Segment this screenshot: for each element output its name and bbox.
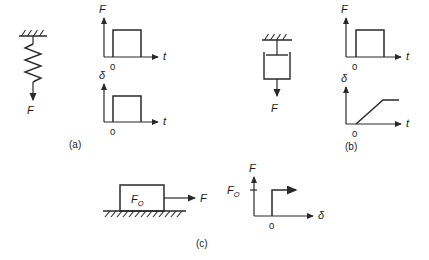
caption-a: (a)	[69, 139, 81, 150]
axis-label-t: t	[406, 50, 410, 62]
axis-label-t: t	[406, 117, 410, 129]
block-force-label: FO	[131, 193, 144, 208]
axis-label-delta: δ	[341, 72, 348, 84]
panel-b: F F t 0 δ t 0 (b)	[262, 3, 410, 152]
axis-label-t: t	[163, 50, 167, 62]
ceiling-hatching-icon	[22, 30, 44, 36]
ground-hatching-icon	[105, 211, 182, 217]
origin-label: 0	[352, 61, 357, 72]
plot-b-force-time: F t 0	[341, 3, 410, 72]
panel-c: FO F F	[103, 162, 325, 249]
origin-label: 0	[110, 126, 115, 137]
axis-label-F: F	[99, 3, 107, 15]
plot-a-deflection-time: δ t 0	[99, 69, 167, 137]
ceiling-hatching-icon	[265, 34, 287, 40]
friction-block-element: FO F	[103, 185, 208, 217]
axis-label-delta: δ	[318, 209, 325, 221]
caption-b: (b)	[345, 141, 357, 152]
dashpot-force-label: F	[271, 102, 279, 114]
mechanical-elements-figure: F F t 0 δ t 0 (a)	[0, 0, 429, 260]
dashpot-element: F	[262, 34, 292, 114]
axis-label-F: F	[341, 3, 349, 15]
level-label-Fo: FO	[227, 184, 240, 199]
spring-element: F	[19, 30, 47, 116]
applied-force-label: F	[200, 192, 208, 204]
spring-force-label: F	[27, 104, 35, 116]
plot-a-force-time: F t 0	[99, 3, 167, 72]
origin-label: 0	[352, 128, 357, 139]
plot-b-deflection-time: δ t 0	[341, 72, 410, 139]
origin-label: 0	[110, 61, 115, 72]
axis-label-F: F	[249, 162, 257, 174]
axis-label-delta: δ	[99, 69, 106, 81]
caption-c: (c)	[196, 238, 208, 249]
plot-c-force-deflection: F δ FO 0	[227, 162, 325, 231]
origin-label: 0	[269, 220, 274, 231]
panel-a: F F t 0 δ t 0 (a)	[19, 3, 167, 150]
axis-label-t: t	[163, 115, 167, 127]
